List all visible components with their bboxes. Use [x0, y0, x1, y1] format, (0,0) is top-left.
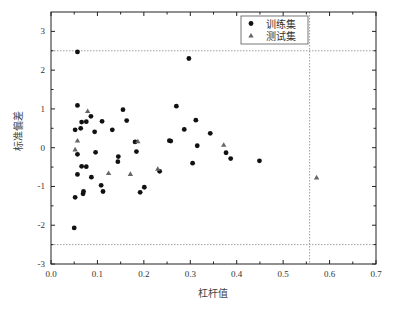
data-point-circle: [168, 139, 173, 144]
x-tick-label: 0.6: [324, 269, 336, 279]
data-point-circle: [134, 149, 139, 154]
plot-border: [51, 12, 376, 264]
x-tick-label: 0.4: [231, 269, 243, 279]
data-point-circle: [224, 150, 229, 155]
data-point-circle: [73, 127, 78, 132]
data-point-circle: [138, 190, 143, 195]
data-point-triangle: [72, 147, 77, 152]
data-point-circle: [110, 127, 115, 132]
williams-plot: 0.00.10.20.30.40.50.60.7 -3-2-10123 杠杆值 …: [0, 0, 394, 312]
data-point-circle: [89, 114, 94, 119]
x-tick-labels: 0.00.10.20.30.40.50.60.7: [45, 269, 382, 279]
data-point-triangle: [221, 142, 226, 147]
data-point-triangle: [75, 138, 80, 143]
x-tick-label: 0.1: [92, 269, 103, 279]
data-point-circle: [75, 103, 80, 108]
y-tick-label: 3: [41, 26, 46, 36]
y-tick-labels: -3-2-10123: [38, 26, 46, 269]
x-tick-label: 0.3: [185, 269, 197, 279]
data-point-circle: [75, 152, 80, 157]
y-tick-label: 2: [41, 65, 46, 75]
data-point-circle: [92, 129, 97, 134]
x-tick-label: 0.5: [278, 269, 290, 279]
data-point-circle: [78, 126, 83, 131]
axis-ticks: [51, 12, 376, 264]
data-point-circle: [193, 118, 198, 123]
data-point-circle: [79, 120, 84, 125]
data-point-circle: [190, 161, 195, 166]
x-axis-title: 杠杆值: [198, 287, 228, 299]
data-point-circle: [73, 195, 78, 200]
data-point-circle: [228, 156, 233, 161]
legend: 训练集 测试集: [241, 16, 308, 44]
data-point-circle: [99, 183, 104, 188]
y-tick-label: 1: [41, 104, 46, 114]
data-point-circle: [208, 131, 213, 136]
legend-circle-icon: [249, 21, 254, 26]
series-circle: [72, 50, 262, 231]
data-point-triangle: [128, 171, 133, 176]
data-point-circle: [72, 226, 77, 231]
data-point-circle: [79, 164, 84, 169]
y-tick-label: -3: [38, 259, 46, 269]
data-point-circle: [75, 172, 80, 177]
data-point-triangle: [314, 175, 319, 180]
data-point-circle: [81, 191, 86, 196]
data-point-circle: [182, 127, 187, 132]
y-tick-label: 0: [41, 143, 46, 153]
y-tick-label: -1: [38, 181, 46, 191]
data-point-circle: [116, 154, 121, 159]
legend-label-test: 测试集: [266, 30, 296, 42]
data-point-triangle: [85, 108, 90, 113]
plot-frame: [51, 12, 376, 264]
data-points: [72, 50, 319, 231]
data-point-circle: [100, 119, 105, 124]
data-point-circle: [257, 158, 262, 163]
data-point-circle: [124, 118, 129, 123]
data-point-triangle: [155, 166, 160, 171]
data-point-triangle: [106, 171, 111, 176]
data-point-circle: [115, 159, 120, 164]
x-tick-label: 0.0: [45, 269, 57, 279]
y-axis-title: 标准偏差: [12, 111, 24, 151]
legend-label-train: 训练集: [266, 18, 296, 30]
x-tick-label: 0.2: [138, 269, 149, 279]
data-point-circle: [84, 164, 89, 169]
data-point-circle: [84, 119, 89, 124]
data-point-circle: [89, 175, 94, 180]
x-tick-label: 0.7: [370, 269, 382, 279]
reference-lines: [51, 12, 376, 264]
data-point-circle: [101, 189, 106, 194]
data-point-circle: [186, 56, 191, 61]
data-point-circle: [142, 185, 147, 190]
y-tick-label: -2: [38, 220, 46, 230]
data-point-circle: [93, 150, 98, 155]
data-point-circle: [121, 107, 126, 112]
data-point-circle: [195, 143, 200, 148]
data-point-circle: [174, 104, 179, 109]
data-point-circle: [75, 50, 80, 55]
